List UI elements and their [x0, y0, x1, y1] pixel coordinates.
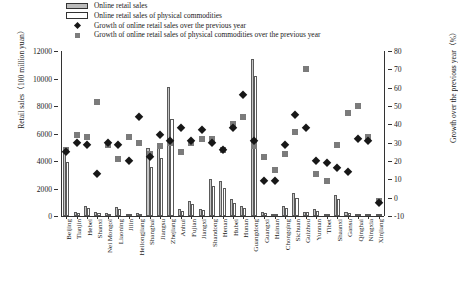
y-tick-left [54, 161, 58, 162]
bar-physical-commodities [191, 204, 194, 216]
x-tick-label: Tianjin [75, 219, 83, 239]
y-tick-label-right: 20 [394, 157, 402, 166]
x-tick-label: Chongqing [284, 219, 292, 250]
y-tick-right [388, 179, 392, 180]
marker-growth-physical [94, 99, 100, 105]
x-tick-label: Jilin [127, 219, 135, 231]
legend-item-physical-commodities: Online retail sales of physical commodit… [64, 11, 320, 21]
legend-item-online-retail-sales: Online retail sales [64, 1, 320, 11]
marker-growth-online [333, 164, 342, 173]
y-axis-right-ticks: -1001020304050607080 [388, 51, 428, 216]
marker-growth-physical [261, 154, 267, 160]
marker-growth-online [301, 123, 310, 132]
marker-growth-online [312, 156, 321, 165]
bar-physical-commodities [170, 119, 173, 216]
y-tick-label-right: 80 [394, 47, 402, 56]
marker-growth-physical [240, 114, 246, 120]
y-tick-left [54, 51, 58, 52]
bar-physical-commodities [87, 208, 90, 216]
x-tick-label: Nei Mongol [106, 219, 114, 253]
x-tick-label: Anhui [179, 219, 187, 237]
bar-physical-commodities [295, 198, 298, 216]
marker-growth-physical [355, 103, 361, 109]
chart-legend: Online retail sales Online retail sales … [64, 1, 320, 40]
y-tick-label-left: 12000 [33, 47, 52, 56]
x-tick-label: Hainan [273, 219, 281, 239]
x-tick-label: Ningxia [367, 219, 375, 242]
marker-growth-physical [126, 134, 132, 140]
y-tick-right [388, 124, 392, 125]
y-tick-label-left: 8000 [37, 102, 52, 111]
y-tick-right [388, 198, 392, 199]
x-tick-label: Zhejiang [169, 219, 177, 244]
y-tick-label-right: 10 [394, 175, 402, 184]
bar-physical-commodities [233, 203, 236, 216]
marker-growth-physical [334, 142, 340, 148]
y-tick-left [54, 106, 58, 107]
y-tick-left [54, 216, 58, 217]
x-tick-label: Liaoning [117, 219, 125, 244]
x-tick-label: Sichuan [294, 219, 302, 242]
y-tick-right [388, 161, 392, 162]
marker-growth-online [260, 177, 269, 186]
y-tick-right [388, 106, 392, 107]
x-tick-label: Guangxi [263, 219, 271, 243]
bar-physical-commodities [243, 208, 246, 216]
marker-growth-online [322, 158, 331, 167]
legend-label: Growth of online retail sales over the p… [90, 21, 246, 31]
marker-growth-online [353, 134, 362, 143]
x-tick-label: Heilongjiang [138, 219, 146, 256]
marker-growth-online [239, 90, 248, 99]
marker-growth-online [228, 123, 237, 132]
bar-physical-commodities [118, 209, 121, 216]
marker-growth-online [364, 136, 373, 145]
marker-growth-physical [115, 156, 121, 162]
marker-growth-online [197, 125, 206, 134]
x-tick-label: Henan [221, 219, 229, 237]
marker-growth-physical [84, 134, 90, 140]
x-tick-label: Fujian [190, 219, 198, 237]
y-tick-left [54, 189, 58, 190]
bar-physical-commodities [66, 162, 69, 216]
x-tick-label: Hubei [232, 219, 240, 236]
marker-growth-physical [157, 143, 163, 149]
x-tick-label: Guangdong [252, 219, 260, 252]
y-tick-label-right: 30 [394, 138, 402, 147]
marker-growth-online [374, 199, 383, 208]
marker-growth-physical [199, 136, 205, 142]
marker-growth-online [270, 177, 279, 186]
x-axis-ticks: BeijingTianjinHebeiShanxiNei MongolLiaon… [61, 216, 384, 283]
y-tick-right [388, 88, 392, 89]
marker-growth-online [291, 111, 300, 120]
marker-growth-online [93, 169, 102, 178]
x-tick-label: Shandong [211, 219, 219, 247]
x-tick-label: Hebei [86, 219, 94, 236]
y-tick-label-right: -10 [394, 212, 404, 221]
legend-label: Online retail sales of physical commodit… [90, 11, 222, 21]
y-tick-label-right: 0 [394, 193, 398, 202]
y-tick-label-left: 6000 [37, 129, 52, 138]
y-tick-label-right: 40 [394, 120, 402, 129]
marker-growth-physical [272, 167, 278, 173]
legend-item-growth-physical: Growth of online retail sales of physica… [64, 30, 320, 40]
plot-area [61, 51, 384, 216]
marker-growth-online [343, 167, 352, 176]
y-tick-right [388, 143, 392, 144]
legend-item-growth-online: Growth of online retail sales over the p… [64, 21, 320, 31]
bar-physical-commodities [160, 158, 163, 216]
y-tick-right [388, 51, 392, 52]
marker-growth-physical [178, 149, 184, 155]
x-tick-label: Guizhou [304, 219, 312, 243]
y-tick-left [54, 134, 58, 135]
diamond-marker-icon [64, 23, 90, 28]
marker-growth-physical [324, 178, 330, 184]
marker-growth-online [114, 140, 123, 149]
bar-physical-commodities [212, 186, 215, 216]
y-tick-label-left: 0 [48, 212, 52, 221]
y-tick-label-right: 70 [394, 65, 402, 74]
marker-growth-online [83, 140, 92, 149]
x-tick-label: Beijing [65, 219, 73, 240]
x-tick-label: Shanxi [96, 219, 104, 238]
x-tick-label: Tibet [325, 219, 333, 234]
